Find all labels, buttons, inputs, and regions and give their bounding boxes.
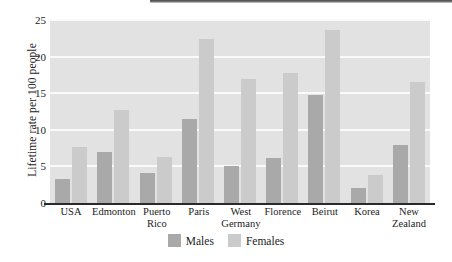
legend-swatch-males (168, 234, 181, 247)
bar-females (157, 157, 172, 203)
bar-males (140, 173, 155, 203)
x-tick-label: Beirut (304, 206, 346, 229)
bar-females (199, 39, 214, 203)
legend-entry[interactable]: Females (228, 234, 284, 247)
x-tick-label: Paris (178, 206, 220, 229)
bar-males (224, 166, 239, 203)
bar-chart-figure: Lifetime rate per 100 people 0510152025 … (0, 0, 452, 262)
y-tick-label: 15 (2, 87, 46, 99)
bar-group (219, 20, 261, 203)
bar-group (134, 20, 176, 203)
chart-legend: MalesFemales (0, 234, 452, 247)
bar-males (393, 145, 408, 203)
bar-group (346, 20, 388, 203)
y-tick-label: 0 (2, 197, 46, 209)
bar-females (283, 73, 298, 203)
bar-groups (50, 20, 430, 203)
plot-area (50, 20, 430, 203)
bar-males (182, 119, 197, 203)
bar-group (50, 20, 92, 203)
bar-group (261, 20, 303, 203)
bar-group (92, 20, 134, 203)
x-tick-label: Korea (346, 206, 388, 229)
bar-females (72, 147, 87, 203)
y-tick-label: 10 (2, 124, 46, 136)
bar-group (177, 20, 219, 203)
x-axis-tick-labels: USAEdmontonPuertoRicoParisWestGermanyFlo… (50, 206, 430, 229)
bar-females (410, 82, 425, 203)
x-tick-label: USA (50, 206, 92, 229)
bar-females (325, 30, 340, 203)
x-tick-label: PuertoRico (136, 206, 178, 229)
bar-males (308, 95, 323, 203)
x-tick-label: Edmonton (92, 206, 136, 229)
y-tick-label: 25 (2, 14, 46, 26)
y-axis-tick-labels: 0510152025 (0, 0, 46, 262)
bar-females (241, 79, 256, 203)
bar-males (55, 179, 70, 203)
x-tick-label: Florence (262, 206, 304, 229)
y-tick-label: 5 (2, 160, 46, 172)
bar-females (368, 175, 383, 203)
bar-males (351, 188, 366, 203)
legend-label: Females (246, 235, 284, 247)
y-tick-label: 20 (2, 51, 46, 63)
x-axis-line (44, 203, 435, 205)
legend-entry[interactable]: Males (168, 234, 214, 247)
x-tick-label: NewZealand (388, 206, 430, 229)
bar-males (266, 158, 281, 203)
bar-group (388, 20, 430, 203)
bar-females (114, 110, 129, 203)
bar-group (303, 20, 345, 203)
legend-swatch-females (228, 234, 241, 247)
bar-males (97, 152, 112, 203)
x-tick-label: WestGermany (220, 206, 262, 229)
legend-label: Males (186, 235, 214, 247)
